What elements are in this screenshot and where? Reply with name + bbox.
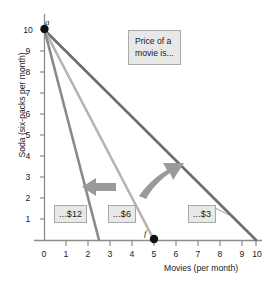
x-tick-label-10: 10: [249, 249, 265, 259]
arrow-up-right-icon: [139, 163, 184, 199]
x-tick-label-1: 1: [59, 249, 73, 259]
y-tick-label-10: 10: [20, 25, 36, 35]
callout-line-1: Price of a: [135, 35, 174, 47]
x-axis-ticks: [66, 241, 256, 247]
point-f-label: f: [144, 228, 147, 238]
x-tick-label-3: 3: [103, 249, 117, 259]
x-tick-label-8: 8: [213, 249, 227, 259]
x-tick-label-4: 4: [125, 249, 139, 259]
x-tick-label-0: 0: [37, 249, 51, 259]
x-tick-label-9: 9: [235, 249, 249, 259]
y-tick-label-2: 2: [20, 193, 36, 203]
price-of-movie-callout: Price of a movie is...: [128, 30, 181, 65]
x-tick-label-7: 7: [191, 249, 205, 259]
x-tick-label-2: 2: [81, 249, 95, 259]
price-tag-12: ...$12: [54, 205, 87, 223]
point-f-marker: [150, 235, 158, 243]
point-a-label: a: [45, 17, 50, 27]
y-axis-title: Soda (six-packs per month): [17, 35, 27, 175]
budget-line-chart: 10 9 8 7 6 5 4 3 2 1 0 1 2 3 4 5 6 7 8 9…: [0, 0, 273, 281]
price-tag-3: ...$3: [188, 205, 216, 223]
x-tick-label-5: 5: [147, 249, 161, 259]
y-axis-ticks: [40, 30, 45, 219]
callout-line-2: movie is...: [135, 47, 174, 59]
x-tick-label-6: 6: [169, 249, 183, 259]
x-axis-title: Movies (per month): [164, 263, 238, 273]
price-tag-6: ...$6: [108, 205, 136, 223]
y-tick-label-1: 1: [20, 214, 36, 224]
